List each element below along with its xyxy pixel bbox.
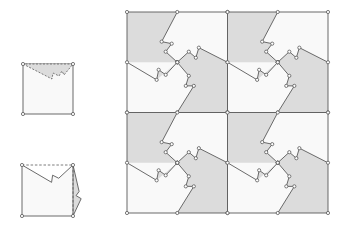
tile	[125, 10, 229, 114]
vertex-dot	[71, 163, 74, 166]
vertex-dot	[276, 61, 279, 64]
vertex-dot	[176, 111, 179, 114]
vertex-dot	[288, 50, 291, 53]
vertex-dot	[157, 68, 160, 71]
vertex-dot	[157, 169, 160, 172]
vertex-dot	[326, 61, 329, 64]
vertex-dot	[265, 151, 268, 154]
vertex-dot	[155, 78, 158, 81]
vertex-dot	[288, 175, 291, 178]
vertex-dot	[192, 185, 195, 188]
vertex-dot	[326, 10, 329, 13]
vertex-dot	[125, 111, 128, 114]
vertex-dot	[125, 161, 128, 164]
tiling-grid	[125, 10, 329, 214]
vertex-dot	[276, 161, 279, 164]
vertex-dot	[261, 40, 264, 43]
tile	[125, 111, 229, 215]
vertex-dot	[176, 61, 179, 64]
vertex-dot	[256, 78, 259, 81]
vertex-dot	[288, 151, 291, 154]
vertex-dot	[226, 211, 229, 214]
vertex-dot	[285, 84, 288, 87]
vertex-dot	[256, 179, 259, 182]
vertex-dot	[187, 175, 190, 178]
step1-figure	[21, 62, 74, 115]
vertex-dot	[298, 147, 301, 150]
vertex-dot	[160, 40, 163, 43]
vertex-dot	[288, 74, 291, 77]
vertex-dot	[293, 185, 296, 188]
vertex-dot	[155, 179, 158, 182]
vertex-dot	[164, 151, 167, 154]
vertex-dot	[21, 112, 24, 115]
vertex-dot	[20, 214, 23, 217]
vertex-dot	[271, 143, 274, 146]
vertex-dot	[258, 169, 261, 172]
vertex-dot	[226, 161, 229, 164]
vertex-dot	[265, 50, 268, 53]
vertex-dot	[276, 10, 279, 13]
tile	[226, 111, 330, 215]
vertex-dot	[125, 10, 128, 13]
vertex-dot	[21, 62, 24, 65]
vertex-dot	[276, 211, 279, 214]
vertex-dot	[71, 112, 74, 115]
vertex-dot	[295, 56, 298, 59]
vertex-dot	[326, 211, 329, 214]
vertex-dot	[125, 61, 128, 64]
vertex-dot	[276, 111, 279, 114]
vertex-dot	[187, 74, 190, 77]
vertex-dot	[226, 111, 229, 114]
vertex-dot	[71, 214, 74, 217]
vertex-dot	[326, 161, 329, 164]
vertex-dot	[184, 84, 187, 87]
step2-figure	[20, 163, 81, 217]
vertex-dot	[271, 42, 274, 45]
vertex-dot	[226, 61, 229, 64]
vertex-dot	[187, 151, 190, 154]
vertex-dot	[176, 161, 179, 164]
vertex-dot	[71, 62, 74, 65]
vertex-dot	[258, 68, 261, 71]
vertex-dot	[164, 174, 167, 177]
tessellation-diagram	[0, 0, 347, 231]
vertex-dot	[20, 163, 23, 166]
notch-added	[73, 165, 81, 216]
vertex-dot	[197, 46, 200, 49]
vertex-dot	[125, 211, 128, 214]
vertex-dot	[187, 50, 190, 53]
vertex-dot	[176, 10, 179, 13]
vertex-dot	[295, 157, 298, 160]
vertex-dot	[261, 141, 264, 144]
tile	[226, 10, 330, 114]
vertex-dot	[265, 174, 268, 177]
vertex-dot	[184, 185, 187, 188]
vertex-dot	[285, 185, 288, 188]
vertex-dot	[265, 73, 268, 76]
vertex-dot	[226, 10, 229, 13]
vertex-dot	[164, 73, 167, 76]
vertex-dot	[170, 42, 173, 45]
vertex-dot	[176, 211, 179, 214]
vertex-dot	[170, 143, 173, 146]
vertex-dot	[164, 50, 167, 53]
vertex-dot	[192, 84, 195, 87]
vertex-dot	[293, 84, 296, 87]
vertex-dot	[326, 111, 329, 114]
vertex-dot	[194, 157, 197, 160]
vertex-dot	[160, 141, 163, 144]
vertex-dot	[298, 46, 301, 49]
vertex-dot	[194, 56, 197, 59]
vertex-dot	[197, 147, 200, 150]
